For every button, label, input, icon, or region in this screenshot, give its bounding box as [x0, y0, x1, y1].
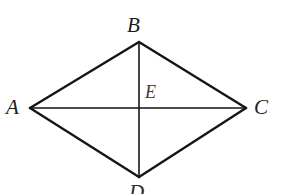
vertex-label-b: B [127, 15, 140, 36]
side-DA [30, 108, 139, 177]
geometry-figure: A B C D E [0, 0, 293, 194]
vertex-label-c: C [254, 97, 268, 118]
side-AB [30, 42, 139, 108]
vertex-label-d: D [129, 182, 144, 194]
side-CD [139, 108, 246, 177]
vertex-label-e: E [145, 83, 156, 101]
vertex-label-a: A [6, 97, 19, 118]
